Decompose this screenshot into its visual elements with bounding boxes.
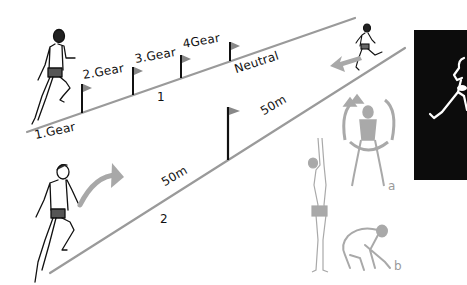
track-1-number: 1 <box>157 90 165 104</box>
exercise-label-a: a <box>388 179 395 193</box>
exercise-figure-b-crouch <box>343 226 390 271</box>
runner-figure-top-left <box>32 30 75 125</box>
runner-photo-panel <box>414 30 467 180</box>
sprint-training-illustration: a b <box>0 0 467 285</box>
exercise-figure-standing-stretch <box>309 138 329 272</box>
exercise-figure-a-arm-circles <box>344 95 394 186</box>
flag-gear-3 <box>133 67 143 95</box>
track-2-number: 2 <box>160 212 168 226</box>
track-2-line <box>50 48 405 273</box>
flag-gear-2 <box>82 84 92 113</box>
exercise-label-b: b <box>394 259 402 273</box>
runner-figure-bottom-left <box>35 165 78 282</box>
runner-figure-top-right <box>356 24 382 70</box>
runner-silhouette-icon <box>414 30 467 180</box>
flag-track-2-midpoint <box>228 107 240 160</box>
